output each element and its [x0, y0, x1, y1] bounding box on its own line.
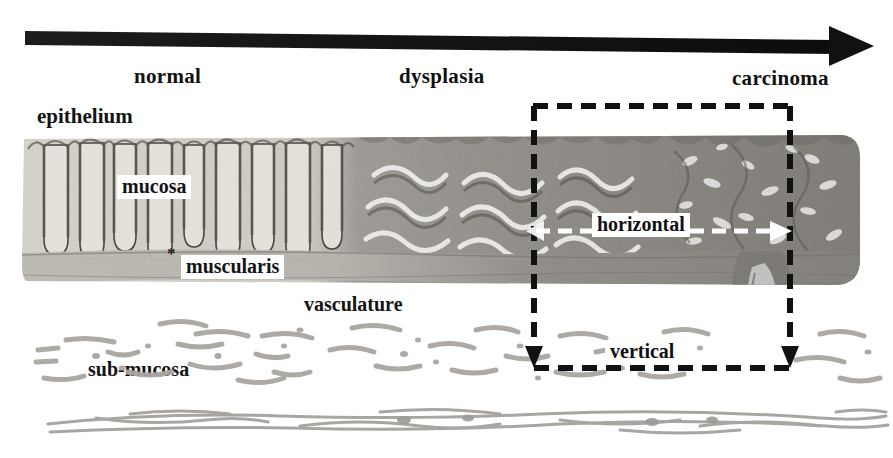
label-vertical: vertical — [605, 340, 679, 364]
label-muscularis: muscularis — [181, 255, 284, 279]
deep-fibrous-band — [0, 396, 893, 440]
figure-canvas: normal dysplasia carcinoma — [0, 0, 893, 458]
region-of-interest-box — [520, 96, 810, 381]
asterisk-marker: * — [167, 244, 176, 264]
stage-label-carcinoma: carcinoma — [732, 66, 829, 91]
stage-label-normal: normal — [134, 64, 201, 89]
stage-label-dysplasia: dysplasia — [399, 64, 485, 89]
label-horizontal: horizontal — [592, 213, 690, 237]
label-mucosa: mucosa — [117, 175, 191, 199]
label-epithelium: epithelium — [37, 104, 133, 129]
